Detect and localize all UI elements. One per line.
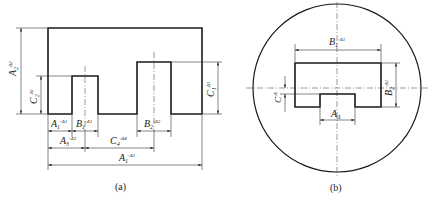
label-A1-small: A1-Δ1 xyxy=(50,118,67,130)
label-C2: C2Δ1 xyxy=(28,89,40,104)
part-outline-b xyxy=(295,63,381,107)
label-B1: B1-Δ1 xyxy=(76,118,92,130)
figure-a: A2Δ2 C2Δ1 C1Δ3 A1-Δ1 B1-Δ1 xyxy=(7,28,222,193)
label-B2: B2-Δ2 xyxy=(144,118,161,130)
label-C1: C1Δ3 xyxy=(205,81,217,97)
caption-b: (b) xyxy=(330,182,342,194)
diagram-canvas: A2Δ2 C2Δ1 C1Δ3 A1-Δ1 B1-Δ1 xyxy=(0,0,432,203)
label-A3: A3-Δ3 xyxy=(59,135,77,147)
label-A-b: AΔ xyxy=(330,108,341,120)
label-A2: A2Δ2 xyxy=(7,61,19,77)
part-outline-a xyxy=(48,28,202,114)
figure-b: B1-Δ1 B2-Δ1 C-Δ AΔ (b) xyxy=(246,2,430,194)
label-B2-b: B2-Δ1 xyxy=(383,80,395,96)
label-C4: C4-Δ4 xyxy=(110,135,127,147)
caption-a: (a) xyxy=(115,181,126,193)
label-A1-total: A1-Δ1 xyxy=(118,152,135,164)
